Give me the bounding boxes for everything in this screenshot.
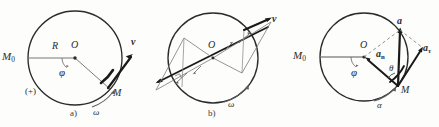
label-point-m-a: M (113, 88, 121, 98)
figure-panel-a: M0 R O φ M v ω (+) a) (0, 0, 150, 127)
center-dot-a (73, 56, 76, 59)
label-omega-a: ω (93, 108, 99, 117)
omega-arrowhead-b (245, 85, 249, 90)
label-phi-c: φ (351, 67, 357, 78)
figure-c-svg (290, 0, 439, 127)
omega-arc-a (92, 92, 113, 107)
label-radius-a: R (52, 41, 58, 51)
caption-panel-b: b) (208, 108, 216, 118)
rim-connector-right-b (242, 29, 244, 73)
normal-accel-vector-c (368, 60, 398, 86)
figure-b-svg (140, 0, 292, 127)
caption-panel-a: a) (70, 108, 77, 118)
label-m0-c: M0 (293, 50, 306, 61)
label-velocity-b: v (272, 14, 276, 24)
label-total-accel-c: a (397, 16, 402, 26)
label-tangential-accel-c: aτ (423, 43, 431, 53)
figure-panel-b: O v ω b) (140, 0, 292, 127)
center-dot-b (212, 57, 215, 60)
label-theta-c: θ (389, 64, 393, 73)
label-point-m-c: M (401, 85, 409, 95)
phi-arc-arrowhead-a (66, 65, 69, 68)
label-positive-sense-a: (+) (25, 87, 36, 96)
rim-connector-left-b (182, 38, 184, 87)
label-velocity-a: v (131, 37, 135, 47)
velocity-tick-r2-b (239, 33, 250, 43)
label-center-c: O (360, 40, 367, 50)
label-phi-a: φ (59, 67, 65, 78)
label-normal-accel-c: an (376, 49, 385, 59)
label-center-a: O (71, 40, 78, 50)
label-center-b: O (208, 40, 215, 50)
velocity-arrowhead-a (126, 54, 133, 59)
diagram-canvas: M0 R O φ M v ω (+) a) (0, 0, 439, 127)
figure-panel-c: M0 O φ an a aτ θ M α (290, 0, 439, 127)
theta-arc-c (388, 73, 395, 78)
velocity-profile-base-right-b (213, 58, 242, 73)
tangential-accel-vector-c (398, 50, 421, 86)
label-omega-b: ω (228, 100, 234, 109)
radius-to-m-a (75, 58, 110, 89)
label-alpha-c: α (377, 101, 382, 110)
label-m0-a: M0 (2, 51, 15, 62)
total-accel-vector-c (398, 31, 400, 86)
tangency-highlight-a (101, 70, 113, 83)
